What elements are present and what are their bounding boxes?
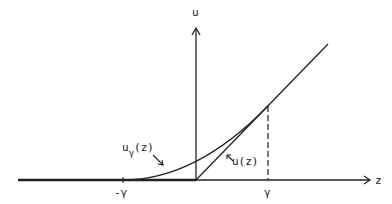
tick-label-neg-gamma: -γ <box>114 187 127 198</box>
u-gamma-main: u <box>122 141 129 154</box>
u-gamma-subscript: γ <box>129 148 134 158</box>
u-gamma-arg: (z) <box>134 141 154 154</box>
y-axis-label: u <box>192 7 199 18</box>
diagram-canvas <box>0 0 392 204</box>
label-pointer-u-gamma <box>153 155 163 165</box>
tick-label-gamma: γ <box>264 187 271 198</box>
curve-label-u-gamma: uγ(z) <box>122 142 154 153</box>
x-axis-label: z <box>375 175 382 186</box>
curve-label-u: u(z) <box>232 156 259 167</box>
